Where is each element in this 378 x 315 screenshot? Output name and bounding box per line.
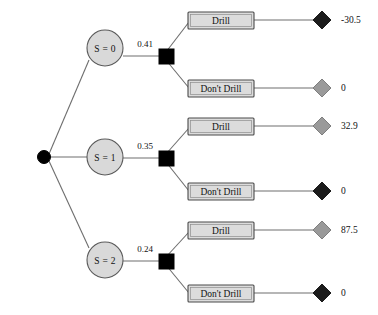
chance-node-s2-label: S = 2 [94,256,116,266]
tree-svg-canvas: S = 0 0.41 Drill Don't Drill -30.5 0 S =… [0,0,378,315]
root-decision-node[interactable] [38,151,51,164]
decision-tree-diagram: S = 0 0.41 Drill Don't Drill -30.5 0 S =… [0,0,378,315]
branch-group-1: S = 1 0.35 Drill Don't Drill 32.9 0 [87,117,358,200]
edge-root-to-s0 [49,60,89,154]
terminal-node-0[interactable] [313,11,331,29]
action-box-drill-0-label: Drill [212,16,230,26]
decision-square-s1[interactable] [159,151,174,166]
probability-label-s0: 0.41 [137,39,153,49]
edge-decision1-to-drill [166,128,189,154]
probability-label-s2: 0.24 [137,244,153,254]
edge-decision2-to-drill [166,232,189,257]
probability-label-s1: 0.35 [137,141,153,151]
payoff-label-3: 0 [341,186,346,196]
edge-root-to-s2 [49,161,89,248]
action-box-dont-drill-1-label: Don't Drill [200,187,241,197]
chance-node-s1-label: S = 1 [94,153,116,163]
terminal-node-2[interactable] [313,117,331,135]
action-box-dont-drill-2-label: Don't Drill [200,289,241,299]
chance-node-s0-label: S = 0 [94,44,116,54]
terminal-node-3[interactable] [313,182,331,200]
decision-square-s0[interactable] [159,49,174,64]
payoff-label-4: 87.5 [341,225,358,235]
branch-group-0: S = 0 0.41 Drill Don't Drill -30.5 0 [87,11,361,97]
payoff-label-5: 0 [341,288,346,298]
terminal-node-1[interactable] [313,79,331,97]
terminal-node-5[interactable] [313,284,331,302]
branch-group-2: S = 2 0.24 Drill Don't Drill 87.5 0 [87,221,358,302]
action-box-dont-drill-0-label: Don't Drill [200,84,241,94]
action-box-drill-2-label: Drill [212,226,230,236]
payoff-label-2: 32.9 [341,121,358,131]
edge-decision0-to-drill [166,22,189,52]
payoff-label-1: 0 [341,83,346,93]
root-edges [49,60,89,248]
payoff-label-0: -30.5 [341,15,361,25]
terminal-node-4[interactable] [313,221,331,239]
action-box-drill-1-label: Drill [212,122,230,132]
decision-square-s2[interactable] [159,254,174,269]
